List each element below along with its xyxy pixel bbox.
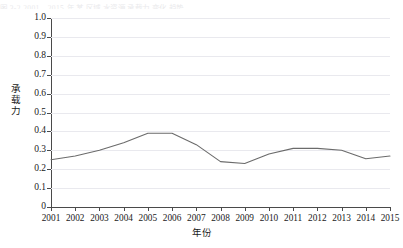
y-tick-label-wrap: 0.4 xyxy=(0,126,46,136)
y-tick-label: 0.9 xyxy=(2,32,46,42)
y-tick-label-wrap: 1.0 xyxy=(0,13,46,23)
x-tick-mark xyxy=(172,207,173,211)
x-tick-mark xyxy=(51,207,52,211)
x-tick-mark xyxy=(390,207,391,211)
y-tick-label: 0.3 xyxy=(2,145,46,155)
x-tick-mark xyxy=(99,207,100,211)
x-tick-label: 2015 xyxy=(375,213,403,224)
x-tick-mark xyxy=(366,207,367,211)
y-tick-label-wrap: 0.1 xyxy=(0,183,46,193)
y-tick-label: 0.8 xyxy=(2,51,46,61)
x-tick-mark xyxy=(124,207,125,211)
y-tick-label: 0.2 xyxy=(2,164,46,174)
x-tick-mark xyxy=(342,207,343,211)
y-tick-label-wrap: 0.8 xyxy=(0,51,46,61)
cropped-caption-strip: 图 3-2 2001—2015 年 某 区域 水资源 承载力 变化 趋势 xyxy=(0,0,403,9)
y-tick-label-wrap: 0.9 xyxy=(0,32,46,42)
y-tick-label: 0.7 xyxy=(2,70,46,80)
x-tick-mark xyxy=(269,207,270,211)
plot-area xyxy=(51,18,390,207)
y-tick-label: 0.4 xyxy=(2,126,46,136)
y-tick-label: 0.6 xyxy=(2,89,46,99)
x-tick-mark xyxy=(293,207,294,211)
y-tick-label-wrap: 0.3 xyxy=(0,145,46,155)
x-tick-mark xyxy=(245,207,246,211)
x-axis-label: 年份 xyxy=(0,228,403,239)
x-tick-mark xyxy=(221,207,222,211)
x-tick-mark xyxy=(196,207,197,211)
x-tick-mark xyxy=(317,207,318,211)
cropped-caption-text: 图 3-2 2001—2015 年 某 区域 水资源 承载力 变化 趋势 xyxy=(0,2,184,9)
y-tick-label-wrap: 0.5 xyxy=(0,108,46,118)
x-tick-mark xyxy=(75,207,76,211)
y-tick-label-wrap: 0.7 xyxy=(0,70,46,80)
y-tick-label: 0.1 xyxy=(2,183,46,193)
y-tick-label: 0.5 xyxy=(2,108,46,118)
y-tick-label-wrap: 0.6 xyxy=(0,89,46,99)
y-tick-label-wrap: 0 xyxy=(0,202,46,212)
series-line-carrying-capacity xyxy=(51,133,390,163)
y-tick-label: 1.0 xyxy=(2,13,46,23)
y-tick-label-wrap: 0.2 xyxy=(0,164,46,174)
x-tick-mark xyxy=(148,207,149,211)
y-tick-label: 0 xyxy=(2,202,46,212)
series-carrying-capacity xyxy=(51,18,390,207)
line-chart-figure: 图 3-2 2001—2015 年 某 区域 水资源 承载力 变化 趋势 承 载… xyxy=(0,0,403,248)
